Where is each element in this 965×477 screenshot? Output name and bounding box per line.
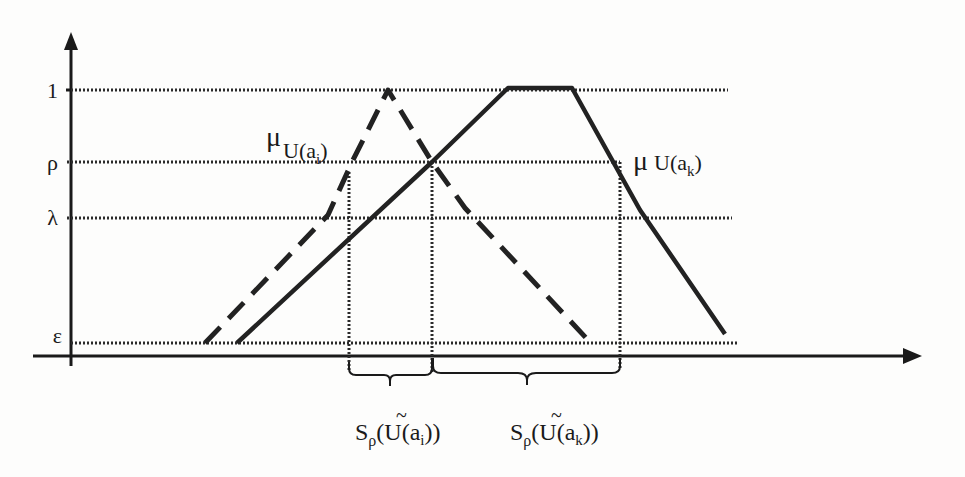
support-braces bbox=[349, 358, 620, 386]
tilde-ak: ~ bbox=[551, 404, 562, 426]
support-label-ai: Sρ(U(ai)) ~ bbox=[355, 404, 441, 450]
curve-label-ai: μ U(ai) bbox=[266, 121, 327, 167]
label-lambda: λ bbox=[47, 205, 58, 230]
mu-subscript-ak: U(ak) bbox=[654, 150, 702, 179]
label-one: 1 bbox=[47, 78, 58, 103]
membership-diagram: 1 ρ λ ε μ U(ai) μ U(ak) bbox=[0, 0, 965, 477]
x-axis-arrow-icon bbox=[903, 348, 922, 364]
mu-subscript-ai: U(ai) bbox=[283, 138, 327, 167]
label-epsilon: ε bbox=[53, 323, 62, 348]
brace-support-ak bbox=[433, 358, 620, 385]
support-label-ak: Sρ(U(ak)) ~ bbox=[510, 404, 599, 450]
diagram-svg: 1 ρ λ ε μ U(ai) μ U(ak) bbox=[0, 0, 965, 477]
mu-symbol-ak: μ bbox=[633, 145, 648, 176]
level-lines bbox=[66, 90, 738, 343]
label-rho: ρ bbox=[47, 150, 58, 175]
mu-symbol-ai: μ bbox=[266, 121, 281, 152]
curve-label-ak: μ U(ak) bbox=[633, 145, 702, 179]
y-axis-arrow-icon bbox=[64, 32, 78, 50]
curve-mu-u-ak bbox=[237, 88, 725, 343]
level-labels: 1 ρ λ ε bbox=[47, 78, 62, 348]
axes bbox=[33, 32, 922, 366]
curves bbox=[205, 88, 725, 343]
brace-support-ai bbox=[349, 358, 432, 386]
projection-lines bbox=[349, 162, 620, 372]
tilde-ai: ~ bbox=[396, 404, 407, 426]
